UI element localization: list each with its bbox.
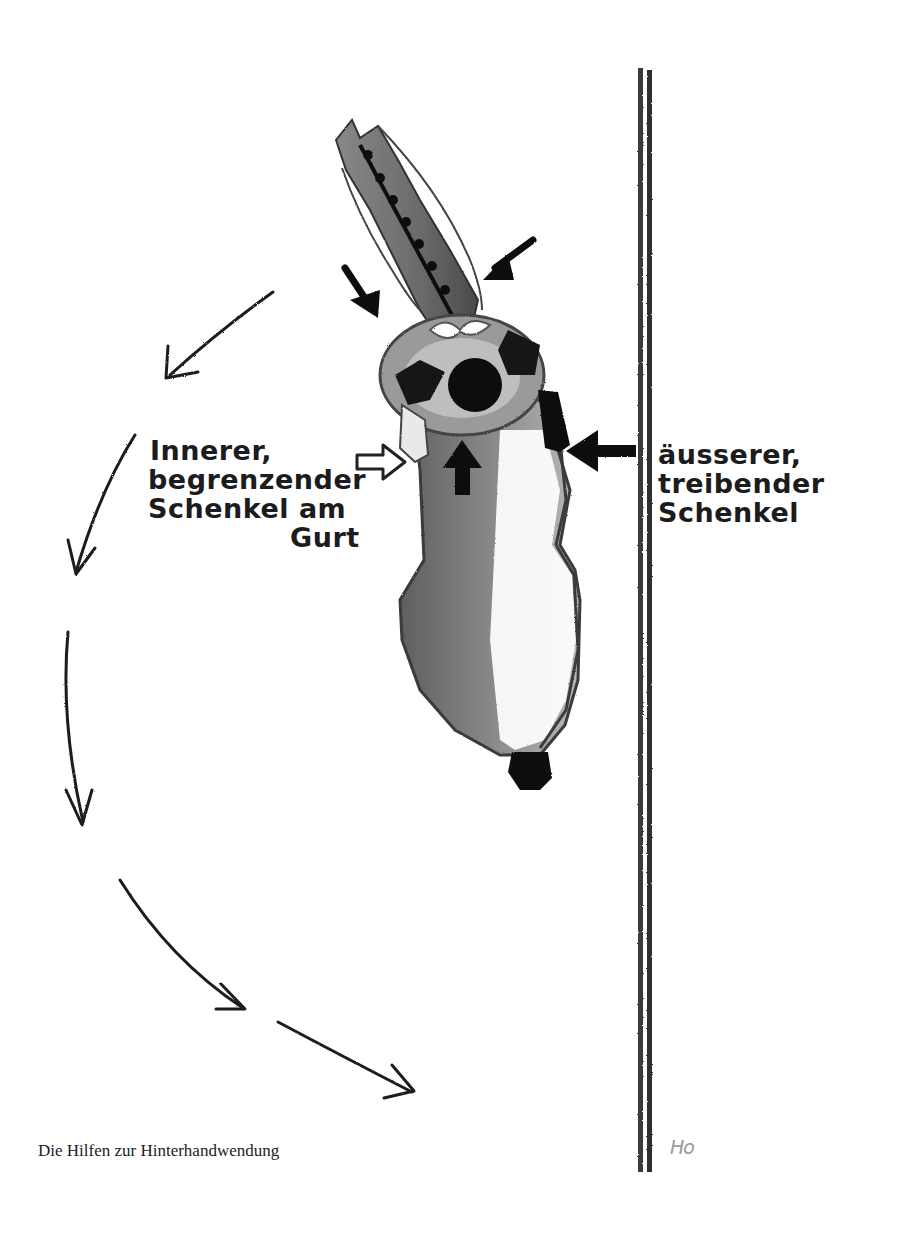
forehand-path-arrows	[66, 292, 414, 1098]
inner-leg-label-line-4: Gurt	[150, 523, 366, 552]
horse-tail	[508, 752, 552, 790]
figure-caption: Die Hilfen zur Hinterhandwendung	[38, 1141, 279, 1161]
outer-leg-label-line-2: treibender	[658, 469, 825, 498]
rider-head	[448, 358, 502, 412]
artist-signature: Ho	[670, 1136, 694, 1158]
inner-leg-label: Innerer, begrenzender Schenkel am Gurt	[150, 436, 366, 552]
path-arrow-5	[278, 1022, 412, 1092]
inner-leg-label-line-2: begrenzender	[148, 465, 366, 494]
path-arrow-2	[76, 435, 135, 572]
outer-leg-label-line-1: äusserer,	[658, 440, 825, 469]
outer-leg-label-line-3: Schenkel	[658, 498, 825, 527]
outer-leg-label: äusserer, treibender Schenkel	[658, 440, 825, 527]
inner-leg-label-line-3: Schenkel am	[148, 494, 366, 523]
arrow-left-icon	[566, 430, 598, 472]
inner-leg-label-line-1: Innerer,	[150, 436, 366, 465]
hinterhandwendung-diagram	[0, 0, 907, 1244]
path-arrow-1	[170, 292, 273, 375]
outer-leg-aid-arrow	[566, 430, 636, 472]
arena-wall	[638, 68, 652, 1172]
